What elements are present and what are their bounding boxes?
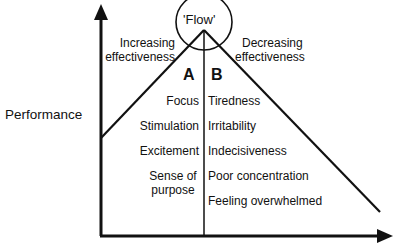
peak-label: 'Flow' (183, 13, 215, 27)
right-item-poor-concentration: Poor concentration (208, 169, 309, 183)
sense-of-line: Sense of (145, 169, 201, 183)
decreasing-line2: effectiveness (235, 50, 305, 64)
right-item-irritability: Irritability (208, 119, 256, 133)
decreasing-line1: Decreasing (235, 36, 305, 50)
right-item-indecisiveness: Indecisiveness (208, 144, 287, 158)
left-item-excitement: Excitement (110, 144, 199, 158)
zone-a-label: A (183, 68, 195, 82)
increasing-label: Increasing effectiveness (105, 36, 175, 64)
increasing-line2: effectiveness (105, 50, 175, 64)
left-item-stimulation: Stimulation (110, 119, 199, 133)
purpose-line: purpose (145, 183, 201, 197)
x-axis-arrow-icon (377, 229, 393, 243)
decreasing-label: Decreasing effectiveness (235, 36, 305, 64)
performance-curve-diagram (0, 0, 399, 248)
y-axis-arrow-icon (94, 4, 108, 20)
increasing-line1: Increasing (105, 36, 175, 50)
left-item-sense-of-purpose: Sense of purpose (145, 169, 201, 197)
right-item-tiredness: Tiredness (208, 94, 260, 108)
zone-b-label: B (211, 68, 223, 82)
y-axis-label: Performance (5, 108, 82, 122)
right-item-feeling-overwhelmed: Feeling overwhelmed (208, 194, 322, 208)
left-item-focus: Focus (110, 94, 199, 108)
